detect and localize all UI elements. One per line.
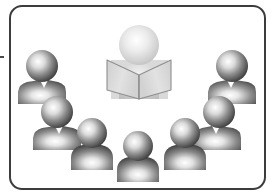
audience-back-right-head <box>216 50 248 82</box>
audience-mid-right-head <box>203 96 235 128</box>
presenter-head <box>119 25 159 65</box>
audience-front-right-head <box>170 118 200 148</box>
audience-mid-left-head <box>41 96 73 128</box>
audience-front-center-head <box>123 131 153 161</box>
meeting-presentation-illustration <box>0 0 274 196</box>
audience-back-left-head <box>26 50 58 82</box>
audience-front-left-head <box>77 118 107 148</box>
illustration-canvas: Meeting Presentation Icon <box>0 0 274 196</box>
left-margin-tick <box>0 56 4 58</box>
